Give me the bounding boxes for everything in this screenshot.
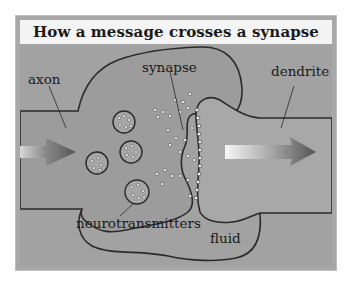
fluid-label: fluid [210,230,241,246]
synapse-label: synapse [142,59,197,75]
neurotransmitters-label: neurotransmitters [76,215,201,231]
dendrite-label: dendrite [271,63,329,79]
synapse-diagram: axon synapse dendrite neurotransmitters … [0,0,358,286]
axon-label: axon [28,71,61,87]
